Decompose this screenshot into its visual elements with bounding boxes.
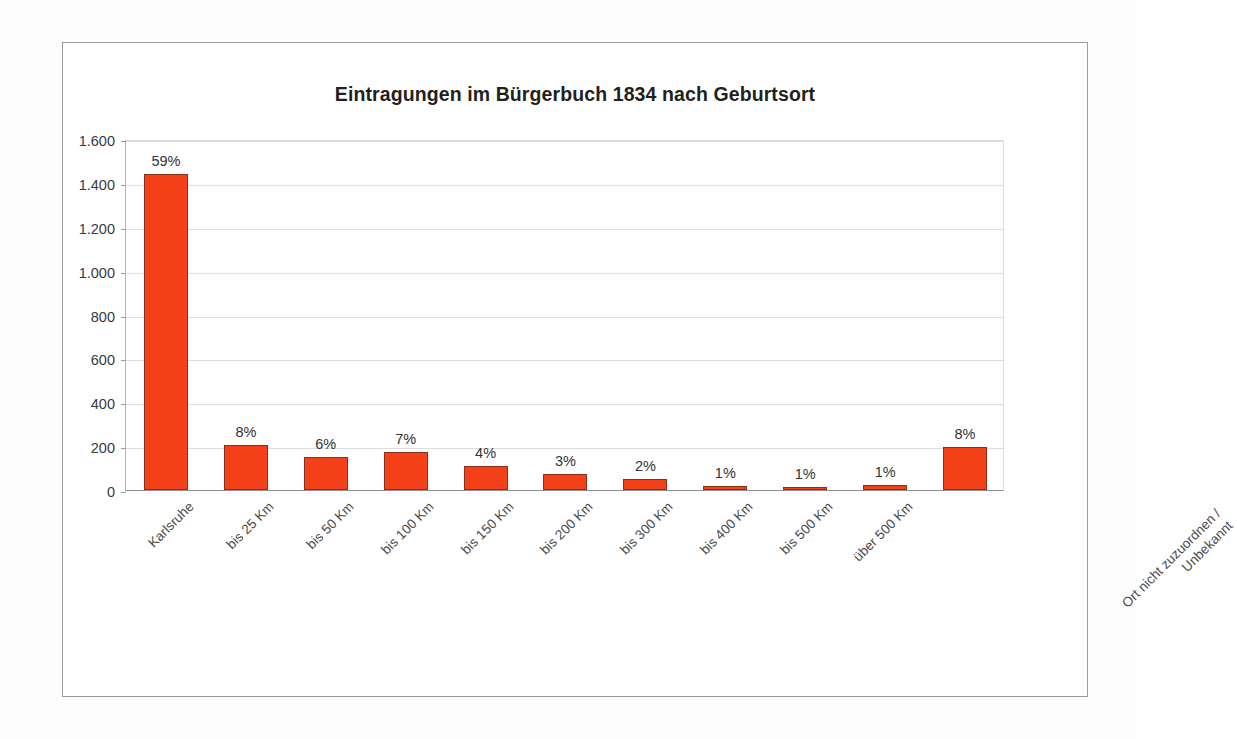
bar[interactable] [863, 485, 907, 490]
bar[interactable] [224, 445, 268, 490]
bar-value-label: 1% [715, 465, 736, 481]
bar-slot: 8%bis 25 Km [206, 141, 286, 490]
bar-slot: 8%Ort nicht zuzuordnen /Unbekannt [925, 141, 1005, 490]
bar[interactable] [144, 174, 188, 490]
y-axis-label: 1.400 [79, 177, 115, 193]
bar[interactable] [464, 466, 508, 490]
bar-slot: 1%bis 400 Km [685, 141, 765, 490]
y-axis-label: 1.600 [79, 133, 115, 149]
y-axis-label: 1.000 [79, 265, 115, 281]
bar-value-label: 2% [635, 458, 656, 474]
bar-value-label: 8% [235, 424, 256, 440]
bar[interactable] [384, 452, 428, 490]
bar-value-label: 7% [395, 431, 416, 447]
chart-title: Eintragungen im Bürgerbuch 1834 nach Geb… [63, 83, 1087, 106]
bar[interactable] [703, 486, 747, 490]
plot-area: 02004006008001.0001.2001.4001.60059%Karl… [125, 140, 1004, 491]
bar[interactable] [943, 447, 987, 490]
y-axis-label: 200 [91, 440, 115, 456]
bar-value-label: 6% [315, 436, 336, 452]
y-axis-label: 0 [107, 484, 115, 500]
bar[interactable] [783, 487, 827, 490]
y-axis-tick [121, 492, 126, 493]
y-axis-label: 800 [91, 309, 115, 325]
y-axis-label: 400 [91, 396, 115, 412]
bar-value-label: 3% [555, 453, 576, 469]
chart-frame: Eintragungen im Bürgerbuch 1834 nach Geb… [62, 42, 1088, 697]
bar-slot: 6%bis 50 Km [286, 141, 366, 490]
x-axis-label-line: Ort nicht zuzuordnen / [1119, 506, 1224, 611]
bar-value-label: 8% [955, 426, 976, 442]
bar-value-label: 59% [151, 153, 180, 169]
bar-value-label: 1% [875, 464, 896, 480]
bar-value-label: 1% [795, 466, 816, 482]
bar[interactable] [304, 457, 348, 490]
bar-slot: 59%Karlsruhe [126, 141, 206, 490]
bar-slot: 7%bis 100 Km [366, 141, 446, 490]
bar-slot: 4%bis 150 Km [446, 141, 526, 490]
bar-slot: 1%bis 500 Km [765, 141, 845, 490]
x-axis-label: Ort nicht zuzuordnen /Unbekannt [1079, 506, 1237, 664]
bar[interactable] [543, 474, 587, 490]
bar-value-label: 4% [475, 445, 496, 461]
bar-slot: 1%über 500 Km [845, 141, 925, 490]
bar[interactable] [623, 479, 667, 490]
y-axis-label: 600 [91, 352, 115, 368]
y-axis-label: 1.200 [79, 221, 115, 237]
bar-slot: 3%bis 200 Km [526, 141, 606, 490]
bar-slot: 2%bis 300 Km [605, 141, 685, 490]
